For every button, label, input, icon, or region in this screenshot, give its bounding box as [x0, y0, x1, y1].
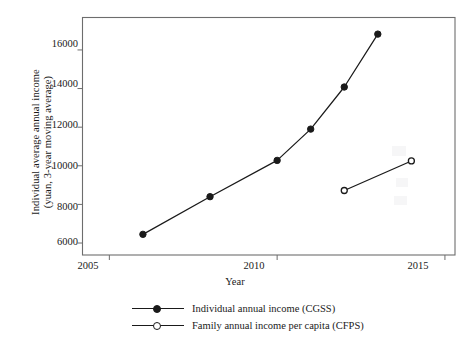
x-axis-title: Year	[0, 276, 470, 287]
legend-label-cfps: Family annual income per capita (CFPS)	[184, 320, 364, 331]
x-tick-2015: 2015	[388, 260, 448, 271]
legend-entry-cgss: Individual annual income (CGSS)	[132, 300, 432, 317]
data-point-0-1	[207, 193, 213, 199]
plot-frame	[83, 18, 456, 256]
data-point-0-4	[341, 84, 347, 90]
data-point-0-3	[308, 126, 314, 132]
chart-figure: 16000 14000 12000 10000 8000 6000 Indivi…	[0, 0, 470, 348]
data-point-1-1	[408, 158, 414, 164]
data-point-1-0	[341, 188, 347, 194]
x-tick-2010: 2010	[224, 260, 284, 271]
legend-marker-filled-circle-icon	[132, 302, 184, 316]
x-tick-2005: 2005	[58, 260, 118, 271]
series-line-1	[344, 161, 411, 191]
legend-marker-open-circle-icon	[132, 319, 184, 333]
y-axis-title-line-1: Individual average annual income	[30, 17, 42, 267]
data-point-0-2	[274, 157, 280, 163]
legend-entry-cfps: Family annual income per capita (CFPS)	[132, 317, 432, 334]
legend-label-cgss: Individual annual income (CGSS)	[184, 303, 335, 314]
data-point-0-5	[375, 31, 381, 37]
y-axis-title-line-2: (yuan, 3-year moving average)	[42, 17, 54, 267]
chart-legend: Individual annual income (CGSS) Family a…	[132, 300, 432, 334]
y-axis-title: Individual average annual income (yuan, …	[30, 17, 64, 267]
series-line-0	[143, 34, 378, 234]
data-point-0-0	[140, 231, 146, 237]
